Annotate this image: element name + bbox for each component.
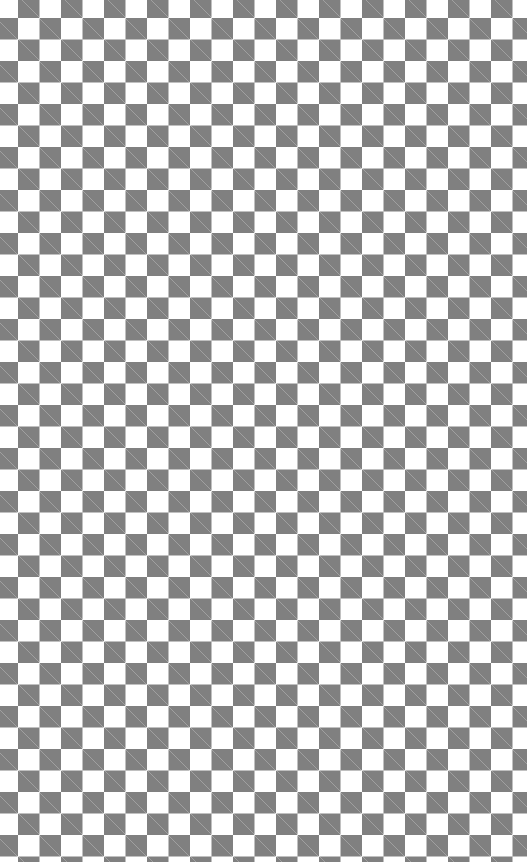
transparency-checkerboard — [0, 0, 527, 862]
